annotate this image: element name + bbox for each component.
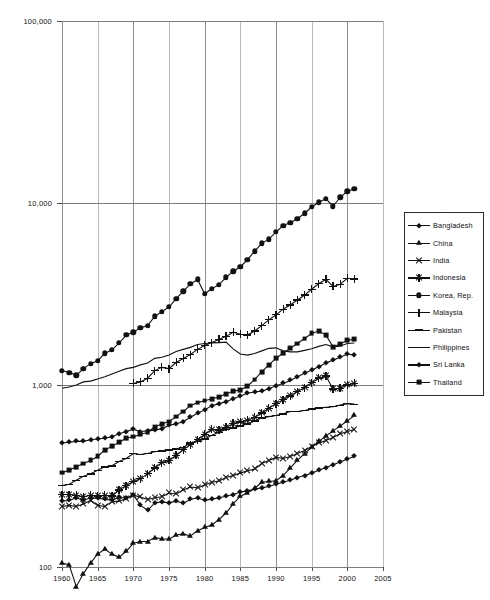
dash-marker-icon	[408, 325, 430, 335]
gridline-y-100	[62, 567, 383, 568]
x-tick-mark-2005	[383, 567, 384, 571]
legend-item-korea-rep[interactable]: Korea, Rep.	[408, 287, 483, 304]
y-tick-label-100: 100	[0, 563, 52, 572]
legend-item-sri-lanka[interactable]: Sri Lanka	[408, 356, 483, 373]
legend-item-label: Sri Lanka	[433, 360, 465, 369]
legend-item-philippines[interactable]: Philippines	[408, 339, 483, 356]
x-tick-label-2000: 2000	[327, 574, 367, 583]
x-tick-label-2005: 2005	[363, 574, 403, 583]
star-marker-icon	[408, 273, 430, 283]
diamond-marker-icon	[408, 221, 430, 231]
legend-item-malaysia[interactable]: Malaysia	[408, 304, 483, 321]
x-tick-label-1970: 1970	[113, 574, 153, 583]
series-line-sri-lanka	[62, 354, 354, 443]
series-line-thailand	[62, 331, 354, 473]
x-tick-label-1985: 1985	[220, 574, 260, 583]
x-tick-label-1960: 1960	[42, 574, 82, 583]
triangle-marker-icon	[408, 238, 430, 248]
square-marker-icon	[408, 377, 430, 387]
legend-item-indonesia[interactable]: Indonesia	[408, 269, 483, 286]
y-tick-label-100000: 100,000	[0, 17, 52, 26]
x-tick-label-1980: 1980	[185, 574, 225, 583]
cross-marker-icon	[408, 255, 430, 265]
y-tick-label-10000: 10,000	[0, 199, 52, 208]
series-line-korea-rep	[62, 189, 354, 375]
legend-item-label: Pakistan	[433, 326, 462, 335]
legend-item-india[interactable]: India	[408, 252, 483, 269]
chart-container: 1995 US Dollars (log scale) 100,00010,00…	[0, 0, 490, 600]
legend-item-label: Malaysia	[433, 308, 463, 317]
legend-item-pakistan[interactable]: Pakistan	[408, 321, 483, 338]
diamond-marker-icon	[408, 360, 430, 370]
legend-item-label: China	[433, 239, 453, 248]
legend-item-label: Bangladesh	[433, 221, 473, 230]
series-line-china	[62, 415, 354, 586]
gridline-x-2005	[383, 21, 384, 567]
chart-legend: BangladeshChinaIndiaIndonesiaKorea, Rep.…	[404, 212, 484, 396]
series-line-philippines	[62, 342, 354, 388]
series-lines	[62, 21, 383, 567]
series-line-indonesia	[62, 376, 354, 497]
legend-item-label: Indonesia	[433, 273, 466, 282]
x-tick-label-1975: 1975	[149, 574, 189, 583]
series-line-malaysia	[133, 278, 354, 383]
line-marker-icon	[408, 342, 430, 352]
legend-item-thailand[interactable]: Thailand	[408, 374, 483, 391]
y-tick-label-1000: 1,000	[0, 381, 52, 390]
plot-area	[62, 21, 383, 567]
legend-item-label: Philippines	[433, 343, 469, 352]
circle-marker-icon	[408, 290, 430, 300]
legend-item-china[interactable]: China	[408, 234, 483, 251]
legend-item-bangladesh[interactable]: Bangladesh	[408, 217, 483, 234]
legend-item-label: Korea, Rep.	[433, 291, 473, 300]
x-tick-label-1995: 1995	[292, 574, 332, 583]
x-tick-label-1990: 1990	[256, 574, 296, 583]
plus-marker-icon	[408, 308, 430, 318]
x-tick-label-1965: 1965	[78, 574, 118, 583]
legend-item-label: Thailand	[433, 378, 462, 387]
legend-item-label: India	[433, 256, 449, 265]
